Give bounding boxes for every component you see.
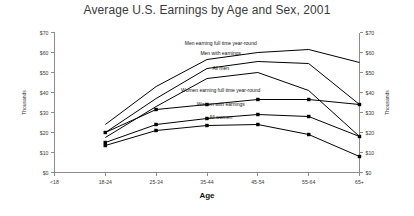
- y-tick-label-left: $40: [40, 90, 49, 96]
- series-marker-4: [155, 123, 158, 126]
- series-marker-5: [256, 123, 259, 126]
- y-tick-label-left: $30: [40, 110, 49, 116]
- series-marker-4: [256, 113, 259, 116]
- x-tick-label: 65+: [355, 179, 364, 185]
- y-tick-label-right: $20: [366, 130, 375, 136]
- y-tick-label-right: $50: [366, 70, 375, 76]
- series-label-5: All women: [209, 114, 232, 120]
- y-tick-label-right: $0: [366, 170, 372, 176]
- series-label-4: Women with earnings: [197, 101, 245, 107]
- y-tick-label-left: $0: [43, 170, 49, 176]
- x-axis-title: Age: [199, 191, 215, 200]
- x-tick-label: <18: [50, 179, 59, 185]
- y-axis-title-left: Thousands: [21, 90, 27, 115]
- series-label-3: Women earning full time year-round: [181, 87, 261, 93]
- x-tick-label: 25-34: [150, 179, 163, 185]
- y-tick-label-left: $10: [40, 150, 49, 156]
- series-marker-3: [307, 98, 310, 101]
- series-marker-4: [358, 135, 361, 138]
- earnings-line-chart: $0$0$10$10$20$20$30$30$40$40$50$50$60$60…: [0, 0, 414, 216]
- y-tick-label-left: $50: [40, 70, 49, 76]
- series-marker-3: [104, 131, 107, 134]
- series-label-2: All men: [212, 65, 229, 71]
- x-tick-label: 55-64: [302, 179, 315, 185]
- y-tick-label-left: $70: [40, 30, 49, 36]
- series-marker-4: [104, 141, 107, 144]
- series-marker-5: [307, 133, 310, 136]
- series-marker-3: [155, 108, 158, 111]
- y-tick-label-right: $10: [366, 150, 375, 156]
- series-marker-5: [358, 155, 361, 158]
- series-marker-5: [104, 144, 107, 147]
- series-line-4: [105, 115, 359, 143]
- series-marker-3: [358, 103, 361, 106]
- x-tick-label: 45-54: [251, 179, 264, 185]
- y-tick-label-right: $40: [366, 90, 375, 96]
- y-axis-title-right: Thousands: [384, 90, 390, 115]
- y-tick-label-right: $30: [366, 110, 375, 116]
- series-marker-4: [206, 117, 209, 120]
- series-label-1: Men with earnings: [200, 50, 241, 56]
- x-tick-label: 35-44: [200, 179, 213, 185]
- series-marker-5: [155, 129, 158, 132]
- series-marker-4: [307, 115, 310, 118]
- y-tick-label-right: $60: [366, 50, 375, 56]
- series-label-0: Men earning full time year-round: [185, 40, 257, 46]
- series-marker-5: [206, 124, 209, 127]
- y-tick-label-right: $70: [366, 30, 375, 36]
- y-tick-label-left: $60: [40, 50, 49, 56]
- series-marker-3: [256, 98, 259, 101]
- chart-container: Average U.S. Earnings by Age and Sex, 20…: [0, 0, 414, 216]
- x-tick-label: 18-24: [99, 179, 112, 185]
- y-tick-label-left: $20: [40, 130, 49, 136]
